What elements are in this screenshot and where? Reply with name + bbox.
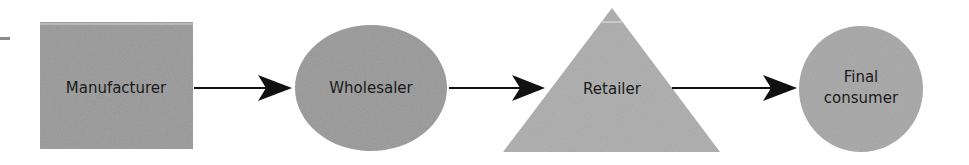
final-consumer-label-line1: Final [844,68,879,86]
arrow-retailer-to-consumer [672,75,797,101]
distribution-channel-diagram: Manufacturer Wholesaler Retailer Final c… [0,0,969,165]
wholesaler-label: Wholesaler [329,79,413,97]
node-manufacturer: Manufacturer [40,22,193,149]
retailer-label: Retailer [583,80,642,98]
edge-fragment [0,37,10,40]
node-final-consumer: Final consumer [799,26,923,152]
node-wholesaler: Wholesaler [295,25,447,151]
arrow-manufacturer-to-wholesaler [194,75,292,101]
arrow-wholesaler-to-retailer [449,75,545,101]
final-consumer-label-line2: consumer [824,89,899,107]
manufacturer-label: Manufacturer [66,79,167,97]
node-retailer: Retailer [503,8,720,152]
